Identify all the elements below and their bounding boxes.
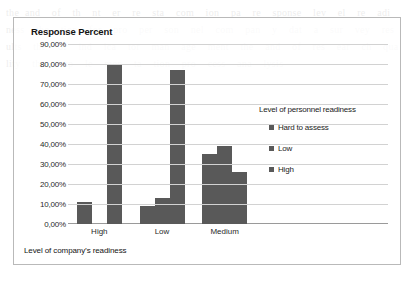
bar-group-medium [193, 44, 256, 224]
bar[interactable] [170, 70, 185, 224]
legend-swatch-icon [269, 125, 274, 130]
bar[interactable] [77, 202, 92, 224]
bar[interactable] [232, 172, 247, 224]
x-axis-label-high: High [68, 227, 131, 236]
legend-title: Level of personnel readiness [259, 105, 389, 114]
bar[interactable] [155, 198, 170, 224]
y-axis-tick-label: 60,00% [40, 100, 66, 109]
y-axis-tick-label: 70,00% [40, 80, 66, 89]
x-axis-label-low: Low [131, 227, 194, 236]
x-axis-label-medium: Medium [193, 227, 256, 236]
y-axis-tick-label: 30,00% [40, 160, 66, 169]
y-axis-tick-label: 40,00% [40, 140, 66, 149]
y-axis-tick-labels: 0,00%10,00%20,00%30,00%40,00%50,00%60,00… [22, 44, 66, 224]
bar-group-low [131, 44, 194, 224]
bar-group-high [68, 44, 131, 224]
gridline [68, 84, 388, 85]
bar[interactable] [217, 146, 232, 224]
legend-swatch-icon [269, 146, 274, 151]
x-axis-category-labels: HighLowMedium [68, 227, 256, 236]
legend-item[interactable]: High [259, 165, 389, 174]
bar-groups [68, 44, 256, 224]
y-axis-tick-label: 10,00% [40, 200, 66, 209]
bar[interactable] [140, 206, 155, 224]
legend-swatch-icon [269, 167, 274, 172]
legend-item[interactable]: Hard to assess [259, 123, 389, 132]
chart-legend: Level of personnel readiness Hard to ass… [259, 105, 389, 186]
legend-item-label: Low [278, 144, 292, 153]
legend-items: Hard to assessLowHigh [259, 123, 389, 174]
gridline [68, 204, 388, 205]
y-axis-tick-label: 0,00% [44, 220, 66, 229]
y-axis-tick-label: 50,00% [40, 120, 66, 129]
legend-item-label: Hard to assess [278, 123, 329, 132]
gridline [68, 44, 388, 45]
y-axis-tick-label: 90,00% [40, 40, 66, 49]
chart-container: Response Percent 0,00%10,00%20,00%30,00%… [13, 17, 401, 265]
gridline [68, 64, 388, 65]
y-axis-tick-label: 80,00% [40, 60, 66, 69]
y-axis-tick-label: 20,00% [40, 180, 66, 189]
legend-item-label: High [278, 165, 294, 174]
legend-item[interactable]: Low [259, 144, 389, 153]
x-axis-title: Level of company’s readiness [24, 246, 126, 255]
